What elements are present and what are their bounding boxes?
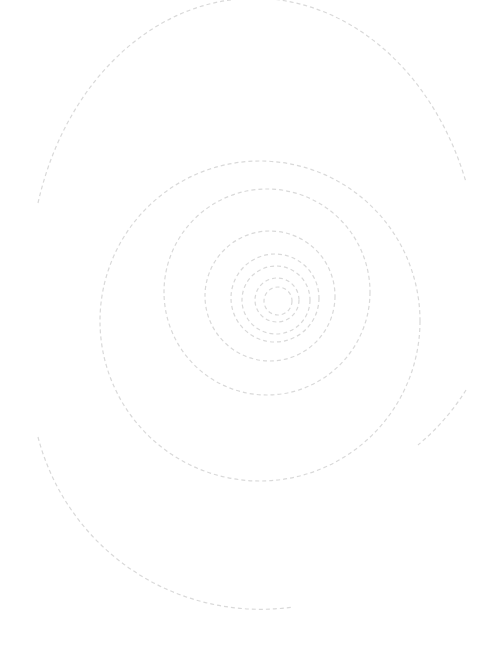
dashed-ring-6 [164, 189, 370, 395]
dashed-ring-5 [205, 231, 335, 361]
concentric-dashed-rings [100, 161, 420, 481]
outer-arc-3 [418, 390, 466, 445]
dashed-ring-4 [231, 254, 319, 342]
dashed-ring-7 [100, 161, 420, 481]
outer-dashed-arcs [38, 0, 466, 609]
spiral-graphic [0, 0, 504, 650]
dashed-ring-3 [242, 266, 310, 334]
outer-arc-1 [38, 0, 466, 203]
dashed-ring-1 [264, 287, 292, 315]
outer-arc-2 [38, 437, 293, 609]
